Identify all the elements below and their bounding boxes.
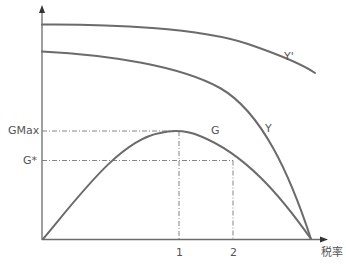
gstar-label: G* xyxy=(23,155,37,166)
x-tick-1: 1 xyxy=(176,247,183,258)
x-tick-2: 2 xyxy=(230,247,237,258)
curve-g-label: G xyxy=(211,125,220,136)
curve-yprime-label: Y' xyxy=(284,51,294,62)
x-axis-label: 税率 xyxy=(321,247,343,258)
y-axis-arrow-icon xyxy=(39,5,45,13)
curve-y xyxy=(42,52,311,240)
curve-g xyxy=(43,131,311,239)
curve-y-label: Y xyxy=(265,123,272,134)
gmax-label: GMax xyxy=(8,125,39,136)
chart-canvas xyxy=(0,0,346,264)
curve-y-prime xyxy=(42,24,315,73)
x-axis-arrow-icon xyxy=(320,237,328,243)
